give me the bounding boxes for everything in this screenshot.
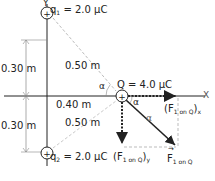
- angle-arc-right: [130, 96, 132, 103]
- fvec-sub: 1 on Q: [173, 158, 193, 165]
- y-axis-label: Y: [43, 0, 49, 8]
- angle-alpha-left: α: [99, 82, 105, 91]
- fvec-main-wrap: →F: [167, 153, 173, 164]
- q2-value: = 2.0 μC: [63, 151, 107, 162]
- q2-label: q2 = 2.0 μC: [50, 152, 107, 162]
- angle-arc-left: [106, 85, 110, 96]
- fy-axis: y: [146, 156, 150, 163]
- force-x-component-label: (F1 on Q)x: [164, 104, 201, 114]
- q1-label: q1 = 2.0 μC: [50, 5, 107, 15]
- fx-main: (F: [164, 103, 174, 114]
- fx-sub: 1 on Q: [174, 108, 194, 115]
- fvec-main: F: [167, 153, 173, 164]
- diagonal-q1-to-Q: [53, 18, 116, 91]
- fx-axis: x: [197, 108, 201, 115]
- x-axis-label: X: [203, 91, 209, 100]
- Q-label: Q = 4.0 μC: [117, 80, 172, 90]
- q2-subscript: 2: [56, 156, 60, 163]
- force-vector-label: →F1 on Q: [167, 154, 193, 164]
- fy-main: (F: [113, 151, 123, 162]
- dimension-upper-diagonal: 0.50 m: [65, 61, 100, 71]
- force-y-component-label: (F1 on Q)y: [113, 152, 150, 162]
- angle-alpha-right: α: [133, 98, 139, 107]
- dimension-upper-vertical: 0.30 m: [1, 64, 36, 74]
- dimension-horizontal: 0.40 m: [56, 100, 91, 110]
- plus-sign-icon: +: [118, 92, 126, 102]
- vector-arrow-icon: →: [168, 146, 174, 153]
- fy-sub: 1 on Q: [123, 156, 143, 163]
- charge-Q: +: [116, 90, 128, 102]
- dimension-lower-diagonal: 0.50 m: [65, 118, 100, 128]
- angle-alpha-vector: α: [146, 114, 152, 123]
- q1-subscript: 1: [56, 9, 60, 16]
- q1-value: = 2.0 μC: [63, 4, 107, 15]
- dimension-lower-vertical: 0.30 m: [1, 121, 36, 131]
